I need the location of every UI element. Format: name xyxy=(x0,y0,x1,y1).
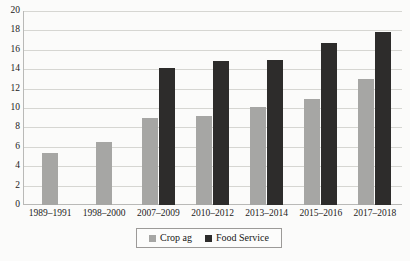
bar-group xyxy=(348,11,402,205)
y-tick-label: 16 xyxy=(2,45,20,55)
y-tick-label: 12 xyxy=(2,84,20,94)
bar-food-service[interactable] xyxy=(375,32,391,205)
bar-crop-ag[interactable] xyxy=(304,99,320,205)
bar-food-service[interactable] xyxy=(321,43,337,205)
x-tick-label: 2017–2018 xyxy=(354,206,397,220)
bar-crop-ag[interactable] xyxy=(358,79,374,205)
x-tick-label: 1989–1991 xyxy=(29,206,72,220)
y-tick-label: 14 xyxy=(2,64,20,74)
x-tick-label: 2007–2009 xyxy=(137,206,180,220)
legend-swatch-icon xyxy=(149,235,156,242)
x-tick-label: 1998–2000 xyxy=(83,206,126,220)
chart-page: 02468101214161820 1989–19911998–20002007… xyxy=(0,0,410,261)
y-tick-label: 4 xyxy=(2,161,20,171)
bar-crop-ag[interactable] xyxy=(42,153,58,205)
y-axis: 02468101214161820 xyxy=(0,11,20,205)
bar-group xyxy=(240,11,294,205)
x-tick-label: 2010–2012 xyxy=(191,206,234,220)
bar-group xyxy=(131,11,185,205)
y-tick-label: 2 xyxy=(2,181,20,191)
bar-group xyxy=(294,11,348,205)
y-tick-label: 20 xyxy=(2,6,20,16)
x-tick-label: 2013–2014 xyxy=(245,206,288,220)
y-tick-label: 18 xyxy=(2,26,20,36)
legend-label: Crop ag xyxy=(160,233,192,243)
x-axis: 1989–19911998–20002007–20092010–20122013… xyxy=(23,206,402,222)
bar-food-service[interactable] xyxy=(159,68,175,205)
bar-group xyxy=(185,11,239,205)
bars-layer xyxy=(23,11,402,205)
chart-legend: Crop agFood Service xyxy=(136,228,282,248)
bar-food-service[interactable] xyxy=(267,60,283,206)
legend-label: Food Service xyxy=(216,233,269,243)
legend-entry[interactable]: Crop ag xyxy=(149,233,192,243)
bar-crop-ag[interactable] xyxy=(142,118,158,205)
legend-swatch-icon xyxy=(205,235,212,242)
y-tick-label: 10 xyxy=(2,103,20,113)
bar-crop-ag[interactable] xyxy=(96,142,112,205)
legend-entry[interactable]: Food Service xyxy=(205,233,269,243)
x-tick-label: 2015–2016 xyxy=(299,206,342,220)
bar-crop-ag[interactable] xyxy=(250,107,266,205)
bar-food-service[interactable] xyxy=(213,61,229,205)
bar-group xyxy=(77,11,131,205)
bar-group xyxy=(23,11,77,205)
y-tick-label: 6 xyxy=(2,142,20,152)
bar-crop-ag[interactable] xyxy=(196,116,212,205)
y-tick-label: 8 xyxy=(2,123,20,133)
y-tick-label: 0 xyxy=(2,200,20,210)
